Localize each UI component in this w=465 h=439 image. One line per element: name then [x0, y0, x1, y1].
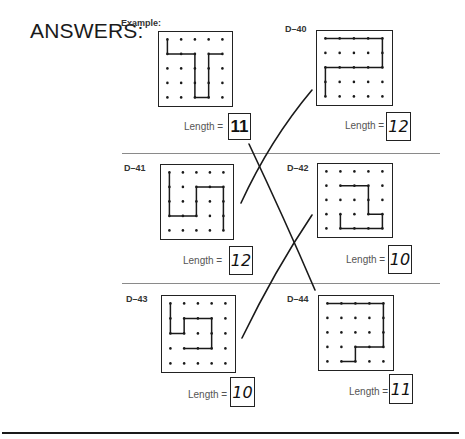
- grid-dot: [382, 360, 385, 363]
- grid-dot: [367, 81, 370, 84]
- grid-dot: [353, 66, 356, 69]
- grid-dot: [182, 171, 185, 174]
- grid-dot: [338, 66, 341, 69]
- grid-dot: [169, 332, 172, 335]
- grid-dot: [324, 37, 327, 40]
- grid-dot: [221, 53, 224, 56]
- grid-dot: [195, 229, 198, 232]
- grid-dot: [353, 52, 356, 55]
- answer-value-d41: 12: [231, 251, 251, 270]
- grid-dot: [194, 67, 197, 70]
- geoboard-example: [159, 32, 234, 108]
- grid-dot: [183, 317, 186, 320]
- grid-dot: [382, 331, 385, 334]
- grid-dot: [210, 362, 213, 365]
- grid-dot: [166, 67, 169, 70]
- answer-box-d41[interactable]: 12: [229, 246, 253, 275]
- grid-dot: [381, 199, 384, 202]
- grid-dot: [367, 52, 370, 55]
- section-divider-2: [122, 283, 440, 284]
- grid-dot: [210, 302, 213, 305]
- grid-dot: [325, 227, 328, 230]
- grid-dot: [381, 95, 384, 98]
- length-label-example: Length =: [184, 121, 223, 132]
- grid-dot: [182, 229, 185, 232]
- grid-dot: [367, 184, 370, 187]
- grid-dot: [367, 199, 370, 202]
- grid-dot: [224, 347, 227, 350]
- grid-dot: [381, 170, 384, 173]
- grid-dot: [353, 81, 356, 84]
- grid-dot: [169, 302, 172, 305]
- puzzle-label-d42: D–42: [287, 163, 309, 173]
- grid-dot: [339, 184, 342, 187]
- grid-dot: [381, 37, 384, 40]
- grid-dot: [222, 186, 225, 189]
- grid-dot: [182, 186, 185, 189]
- answer-box-d42[interactable]: 10: [388, 245, 412, 274]
- geoboard-d41: [161, 165, 235, 241]
- grid-dot: [221, 82, 224, 85]
- grid-dot: [368, 317, 371, 320]
- grid-dot: [367, 66, 370, 69]
- grid-dot: [325, 213, 328, 216]
- answer-value-d40: 12: [388, 117, 408, 136]
- puzzle-label-d43: D–43: [126, 294, 148, 304]
- grid-dot: [324, 66, 327, 69]
- dot-grid-d44: [318, 295, 394, 371]
- length-label-d44: Length =: [349, 386, 388, 397]
- length-label-d43: Length =: [188, 389, 227, 400]
- grid-dot: [168, 215, 171, 218]
- grid-dot: [182, 215, 185, 218]
- puzzle-label-d41: D–41: [124, 163, 146, 173]
- grid-dot: [339, 213, 342, 216]
- section-divider-1: [122, 153, 440, 154]
- grid-dot: [353, 227, 356, 230]
- grid-dot: [354, 360, 357, 363]
- grid-dot: [180, 38, 183, 41]
- grid-dot: [195, 200, 198, 203]
- grid-dot: [224, 332, 227, 335]
- length-label-d41: Length =: [183, 255, 222, 266]
- grid-dot: [169, 362, 172, 365]
- puzzle-label-d40: D–40: [285, 24, 307, 34]
- grid-dot: [338, 37, 341, 40]
- grid-dot: [326, 317, 329, 320]
- grid-dot: [367, 227, 370, 230]
- grid-dot: [338, 95, 341, 98]
- grid-dot: [169, 317, 172, 320]
- grid-dot: [166, 38, 169, 41]
- grid-dot: [222, 171, 225, 174]
- path-line: [340, 186, 382, 229]
- grid-dot: [224, 317, 227, 320]
- answer-box-d43[interactable]: 10: [230, 377, 255, 407]
- grid-dot: [339, 170, 342, 173]
- answer-box-d40[interactable]: 12: [386, 112, 411, 141]
- grid-dot: [183, 332, 186, 335]
- geoboard-d44: [319, 296, 395, 372]
- grid-dot: [340, 360, 343, 363]
- answer-box-d44[interactable]: 11: [389, 374, 413, 404]
- grid-dot: [368, 346, 371, 349]
- grid-dot: [354, 331, 357, 334]
- dot-grid-d40: [316, 30, 393, 106]
- answer-value-d43: 10: [232, 383, 252, 402]
- grid-dot: [209, 186, 212, 189]
- path-line: [170, 303, 211, 348]
- grid-dot: [210, 317, 213, 320]
- grid-dot: [194, 53, 197, 56]
- grid-dot: [197, 362, 200, 365]
- grid-dot: [339, 227, 342, 230]
- grid-dot: [340, 317, 343, 320]
- grid-dot: [340, 346, 343, 349]
- grid-dot: [182, 200, 185, 203]
- grid-dot: [368, 360, 371, 363]
- grid-dot: [169, 347, 172, 350]
- grid-dot: [325, 170, 328, 173]
- grid-dot: [209, 171, 212, 174]
- grid-dot: [354, 317, 357, 320]
- grid-dot: [381, 66, 384, 69]
- grid-dot: [222, 215, 225, 218]
- grid-dot: [180, 67, 183, 70]
- grid-dot: [224, 362, 227, 365]
